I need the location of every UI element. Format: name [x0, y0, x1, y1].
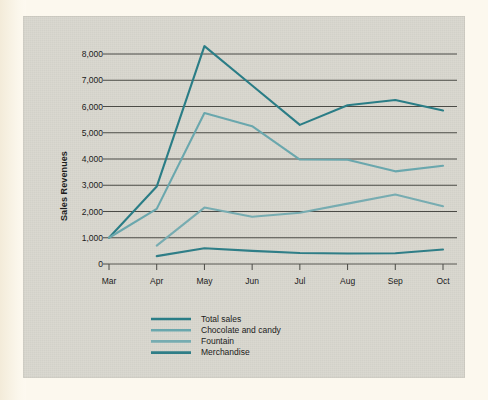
- x-tick-label-jun: Jun: [232, 276, 272, 286]
- legend-label-2: Fountain: [201, 336, 234, 346]
- series-line-1: [109, 113, 443, 238]
- legend-label-3: Merchandise: [201, 347, 250, 357]
- x-tick-label-aug: Aug: [328, 276, 368, 286]
- line-chart: [23, 16, 465, 378]
- series-lines: [109, 46, 443, 256]
- gridlines: [109, 54, 457, 264]
- y-tick-label: 5,000: [57, 128, 103, 138]
- y-tick-label: 3,000: [57, 180, 103, 190]
- series-line-3: [157, 248, 443, 256]
- x-tick-label-jul: Jul: [280, 276, 320, 286]
- x-tick-label-apr: Apr: [137, 276, 177, 286]
- page-canvas: Sales Revenues 01,0002,0003,0004,0005,00…: [0, 0, 488, 400]
- y-tick-label: 0: [57, 259, 103, 269]
- legend-label-0: Total sales: [201, 314, 241, 324]
- y-tick-label: 2,000: [57, 207, 103, 217]
- x-tick-label-oct: Oct: [423, 276, 463, 286]
- y-tick-label: 6,000: [57, 102, 103, 112]
- legend-label-1: Chocolate and candy: [201, 325, 281, 335]
- x-tick-label-mar: Mar: [89, 276, 129, 286]
- y-tick-label: 4,000: [57, 154, 103, 164]
- chart-panel: Sales Revenues 01,0002,0003,0004,0005,00…: [23, 16, 465, 378]
- y-tick-label: 7,000: [57, 75, 103, 85]
- y-tick-label: 8,000: [57, 49, 103, 59]
- legend-swatches: [151, 319, 191, 353]
- y-tick-label: 1,000: [57, 233, 103, 243]
- x-tick-label-may: May: [184, 276, 224, 286]
- x-tick-label-sep: Sep: [375, 276, 415, 286]
